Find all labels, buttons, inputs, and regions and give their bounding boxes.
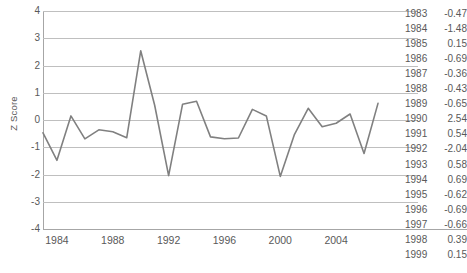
- table-row: 1983-0.47: [405, 6, 467, 21]
- table-cell-value: -0.69: [444, 51, 467, 66]
- table-row: 19850.15: [405, 36, 467, 51]
- table-cell-year: 1998: [405, 232, 427, 247]
- table-cell-value: -0.43: [444, 81, 467, 96]
- table-row: 1995-0.62: [405, 187, 467, 202]
- x-axis-tick-label: 1996: [213, 233, 236, 247]
- table-row: 1984-1.48: [405, 21, 467, 36]
- table-cell-year: 1993: [405, 157, 427, 172]
- table-cell-value: -0.69: [444, 202, 467, 217]
- table-cell-value: -0.62: [444, 187, 467, 202]
- x-axis-tick-label: 2004: [324, 233, 347, 247]
- table-cell-value: -1.48: [444, 21, 467, 36]
- table-cell-year: 1992: [405, 141, 427, 156]
- table-row: 1996-0.69: [405, 202, 467, 217]
- table-row: 1987-0.36: [405, 66, 467, 81]
- table-cell-year: 1987: [405, 66, 427, 81]
- table-row: 19910.54: [405, 126, 467, 141]
- y-axis-tick-label: 1: [16, 88, 40, 98]
- table-cell-value: -0.65: [444, 96, 467, 111]
- x-axis-tick-label: 1992: [157, 233, 180, 247]
- table-cell-year: 1991: [405, 126, 427, 141]
- x-axis-tick-labels: 198419881992199620002004: [43, 233, 378, 249]
- table-cell-year: 1984: [405, 21, 427, 36]
- table-row: 1989-0.65: [405, 96, 467, 111]
- x-axis-tick-label: 2000: [269, 233, 292, 247]
- table-cell-year: 1989: [405, 96, 427, 111]
- table-cell-value: 0.69: [448, 172, 467, 187]
- table-cell-year: 1996: [405, 202, 427, 217]
- table-cell-value: -0.47: [444, 6, 467, 21]
- table-cell-year: 1985: [405, 36, 427, 51]
- x-axis-tick-label: 1984: [45, 233, 68, 247]
- table-row: 19930.58: [405, 157, 467, 172]
- y-axis-tick-label: 0: [16, 115, 40, 125]
- x-axis-line: [43, 229, 467, 230]
- y-axis-tick-label: -4: [16, 224, 40, 234]
- y-axis-tick-label: -3: [16, 197, 40, 207]
- table-cell-value: -0.66: [444, 217, 467, 232]
- table-cell-year: 1990: [405, 111, 427, 126]
- y-axis-tick-labels: 43210-1-2-3-4: [16, 0, 40, 240]
- table-cell-year: 1988: [405, 81, 427, 96]
- y-axis-tick-label: -2: [16, 170, 40, 180]
- table-cell-value: 0.54: [448, 126, 467, 141]
- table-row: 19980.39: [405, 232, 467, 247]
- table-cell-year: 1986: [405, 51, 427, 66]
- table-cell-value: 0.15: [448, 247, 467, 262]
- table-cell-value: 2.54: [448, 111, 467, 126]
- table-row: 19902.54: [405, 111, 467, 126]
- y-axis-tick-label: 3: [16, 33, 40, 43]
- table-cell-year: 1983: [405, 6, 427, 21]
- table-cell-value: 0.15: [448, 36, 467, 51]
- y-axis-tick-label: -1: [16, 142, 40, 152]
- table-cell-year: 1999: [405, 247, 427, 262]
- table-cell-value: -0.36: [444, 66, 467, 81]
- table-row: 19990.15: [405, 247, 467, 262]
- table-row: 1992-2.04: [405, 141, 467, 156]
- table-row: 19940.69: [405, 172, 467, 187]
- line-series: [43, 11, 378, 229]
- table-cell-value: 0.39: [448, 232, 467, 247]
- table-row: 1986-0.69: [405, 51, 467, 66]
- table-cell-value: -2.04: [444, 141, 467, 156]
- table-cell-year: 1994: [405, 172, 427, 187]
- table-row: 1988-0.43: [405, 81, 467, 96]
- table-cell-year: 1997: [405, 217, 427, 232]
- table-row: 1997-0.66: [405, 217, 467, 232]
- table-cell-year: 1995: [405, 187, 427, 202]
- table-cell-value: 0.58: [448, 157, 467, 172]
- y-axis-tick-label: 4: [16, 6, 40, 16]
- x-axis-tick-label: 1988: [101, 233, 124, 247]
- y-axis-tick-label: 2: [16, 61, 40, 71]
